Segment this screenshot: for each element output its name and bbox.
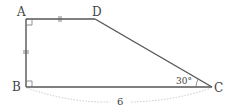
trapezoid-diagram: A D B C 30° 6 — [0, 0, 234, 111]
dashed-measure-arc-right — [131, 88, 211, 102]
right-angle-icon-A — [26, 19, 32, 25]
dashed-measure-arc — [27, 88, 110, 102]
angle-label: 30° — [176, 76, 192, 86]
vertex-label-A: A — [16, 5, 26, 19]
length-label: 6 — [117, 96, 123, 107]
right-angle-icon-B — [26, 81, 32, 87]
side-DC — [95, 19, 212, 87]
vertex-label-B: B — [12, 80, 21, 94]
vertex-label-D: D — [92, 5, 102, 19]
angle-arc-icon-C — [196, 79, 198, 87]
equal-tick-marks — [23, 16, 61, 53]
vertex-label-C: C — [214, 81, 223, 95]
